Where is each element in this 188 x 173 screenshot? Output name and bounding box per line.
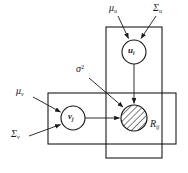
arrow-mu-v-to-v	[33, 97, 61, 112]
diagram-svg	[0, 0, 188, 173]
node-R-ij	[121, 105, 147, 131]
figure-canvas: ui vj Rij μu Σu μv Σv σ2	[0, 0, 188, 173]
plate-group	[48, 27, 176, 158]
arrow-sigma-v-to-v	[29, 125, 61, 137]
node-u-i	[122, 40, 146, 64]
node-v-j	[61, 106, 85, 130]
